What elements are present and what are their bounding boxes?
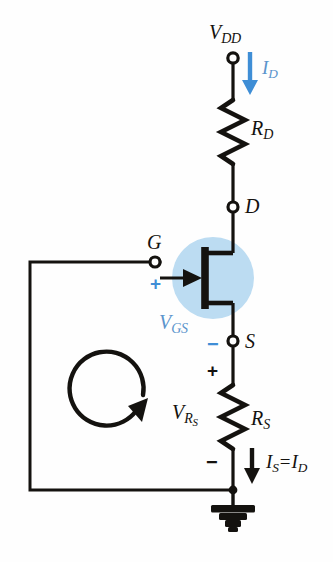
label-node-gate: G — [147, 232, 161, 252]
circuit-diagram-canvas: VDD ID RD D G + VGS − S + VRS RS — [0, 0, 333, 562]
drain-terminal-node — [228, 202, 238, 212]
kvl-loop-arrow-icon — [70, 352, 148, 426]
label-source-current-equation: IS=ID — [266, 452, 307, 474]
label-vgs: VGS — [159, 312, 188, 336]
label-drain-current: ID — [262, 58, 278, 80]
circuit-schematic — [0, 0, 333, 562]
source-polarity-minus: − — [207, 334, 219, 354]
label-node-drain: D — [245, 196, 259, 216]
drain-current-arrow-icon — [242, 52, 258, 95]
gate-terminal-node — [150, 257, 160, 267]
vdd-terminal-node — [228, 53, 238, 63]
label-vdd: VDD — [209, 22, 241, 46]
ground-symbol-icon — [211, 505, 255, 532]
source-terminal-node — [228, 336, 238, 346]
resistor-rs-zigzag — [221, 385, 245, 449]
label-resistor-rd: RD — [251, 118, 273, 142]
rs-polarity-plus: + — [207, 361, 218, 380]
resistor-rd-zigzag — [221, 100, 245, 164]
source-current-arrow-icon — [244, 448, 260, 484]
label-resistor-rs: RS — [251, 408, 270, 432]
rs-polarity-minus: − — [206, 452, 218, 472]
gate-polarity-plus: + — [150, 274, 161, 293]
label-node-source: S — [245, 331, 255, 351]
label-vrs: VRS — [172, 402, 198, 428]
